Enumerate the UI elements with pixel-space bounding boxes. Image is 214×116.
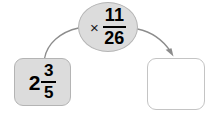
diagram-canvas: 2 3 5 × 11 26 — [0, 0, 214, 116]
fraction-denominator: 5 — [43, 84, 54, 102]
arrow-input-to-operator — [45, 28, 79, 59]
operator-oval: × 11 26 — [78, 2, 138, 52]
operator-denominator: 26 — [103, 29, 125, 48]
multiplication-sign-icon: × — [90, 20, 99, 35]
arrow-operator-to-output — [138, 29, 171, 52]
fraction-part: 3 5 — [41, 62, 56, 102]
operator-numerator: 11 — [104, 6, 125, 25]
fraction-numerator: 3 — [43, 62, 54, 80]
operator-fraction: 11 26 — [103, 6, 126, 48]
answer-input-box[interactable] — [147, 58, 205, 110]
mixed-number-2-3-5: 2 3 5 — [29, 62, 57, 102]
arrowhead-icon — [166, 48, 174, 56]
whole-number-part: 2 — [29, 72, 41, 93]
input-value-box: 2 3 5 — [14, 58, 71, 106]
